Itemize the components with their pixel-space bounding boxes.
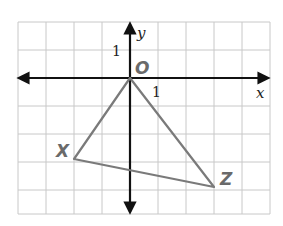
x-tick-label: 1 [152, 84, 161, 100]
vertex-label-z: Z [219, 169, 233, 189]
x-axis-label: x [256, 84, 265, 102]
y-tick-label: 1 [112, 43, 121, 59]
coordinate-plane: y x 1 1 O X Z [0, 0, 283, 226]
vertex-label-o: O [135, 58, 149, 78]
triangle-oxz [74, 78, 214, 187]
y-axis-label: y [136, 24, 146, 42]
vertex-label-x: X [55, 141, 70, 161]
